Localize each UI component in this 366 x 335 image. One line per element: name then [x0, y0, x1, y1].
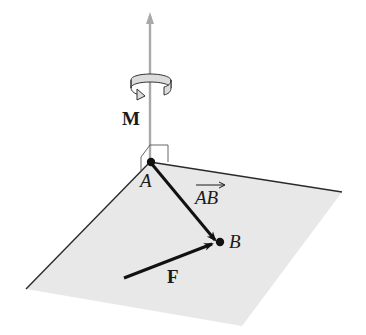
- moment-diagram: M A AB B F: [0, 0, 366, 335]
- label-vector-ab: AB: [193, 187, 219, 208]
- label-force: F: [167, 266, 179, 287]
- label-point-a: A: [138, 170, 152, 191]
- moment-axis-arrowhead: [146, 12, 154, 24]
- point-b: [216, 238, 224, 246]
- point-a: [147, 158, 155, 166]
- label-point-b: B: [229, 231, 241, 252]
- label-moment: M: [122, 108, 140, 129]
- plane: [26, 162, 342, 326]
